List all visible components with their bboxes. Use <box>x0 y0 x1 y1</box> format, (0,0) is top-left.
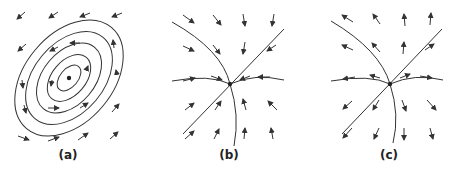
panel-b-label: (b) <box>209 148 249 162</box>
panel-a-label: (a) <box>48 148 88 162</box>
panel-c-label: (c) <box>369 148 409 162</box>
equilibrium-point <box>228 82 232 86</box>
panel-a-center <box>0 0 145 157</box>
panel-b-stable-node <box>172 14 284 146</box>
panel-c-unstable-node <box>331 13 443 143</box>
equilibrium-point <box>388 82 392 86</box>
equilibrium-point <box>67 76 71 80</box>
